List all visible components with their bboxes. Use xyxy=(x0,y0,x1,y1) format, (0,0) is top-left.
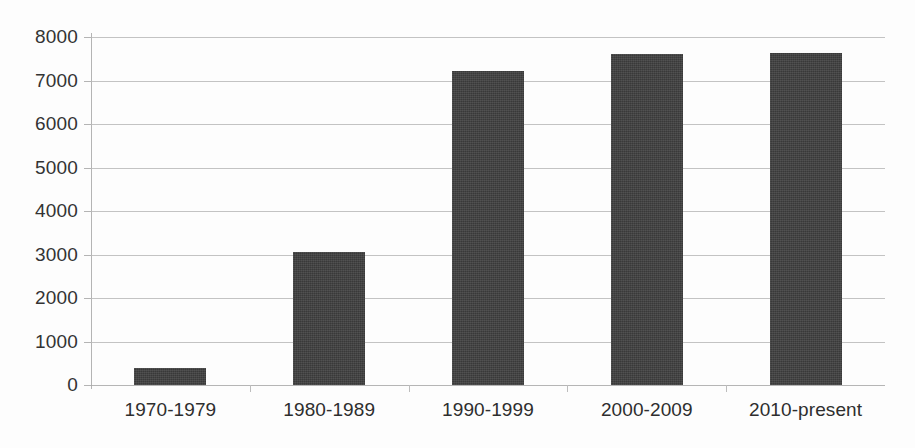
y-tick-mark-3000 xyxy=(84,255,91,256)
y-tick-mark-6000 xyxy=(84,124,91,125)
x-tick-label-2000-2009: 2000-2009 xyxy=(567,399,726,421)
bar-2000-2009 xyxy=(611,54,683,385)
x-axis-separator xyxy=(567,385,568,392)
y-tick-mark-2000 xyxy=(84,298,91,299)
y-tick-label: 7000 xyxy=(6,71,78,90)
y-tick-label: 5000 xyxy=(6,158,78,177)
y-tick-mark-4000 xyxy=(84,211,91,212)
y-tick-label: 4000 xyxy=(6,201,78,220)
x-axis-separator xyxy=(250,385,251,392)
y-tick-label: 8000 xyxy=(6,27,78,46)
y-tick-mark-0 xyxy=(84,385,91,386)
gridline-0 xyxy=(91,385,885,386)
y-tick-label: 1000 xyxy=(6,332,78,351)
y-axis-tick-labels: 010002000300040005000600070008000 xyxy=(0,0,78,448)
y-tick-mark-1000 xyxy=(84,342,91,343)
x-tick-label-1970-1979: 1970-1979 xyxy=(91,399,250,421)
bar-1990-1999 xyxy=(452,71,524,385)
x-axis-separator xyxy=(726,385,727,392)
x-tick-label-1980-1989: 1980-1989 xyxy=(250,399,409,421)
y-tick-label: 6000 xyxy=(6,114,78,133)
y-tick-mark-5000 xyxy=(84,168,91,169)
y-tick-label: 0 xyxy=(6,375,78,394)
x-axis-separator xyxy=(409,385,410,392)
bar-1970-1979 xyxy=(134,368,206,385)
y-tick-mark-8000 xyxy=(84,37,91,38)
y-tick-mark-7000 xyxy=(84,81,91,82)
bar-1980-1989 xyxy=(293,252,365,385)
y-tick-label: 2000 xyxy=(6,288,78,307)
bar-chart: 010002000300040005000600070008000 1970-1… xyxy=(0,0,915,448)
x-tick-label-1990-1999: 1990-1999 xyxy=(409,399,568,421)
y-tick-label: 3000 xyxy=(6,245,78,264)
x-tick-label-2010-present: 2010-present xyxy=(726,399,885,421)
bar-2010-present xyxy=(770,53,842,385)
plot-area xyxy=(91,37,885,385)
gridline-8000 xyxy=(91,37,885,38)
